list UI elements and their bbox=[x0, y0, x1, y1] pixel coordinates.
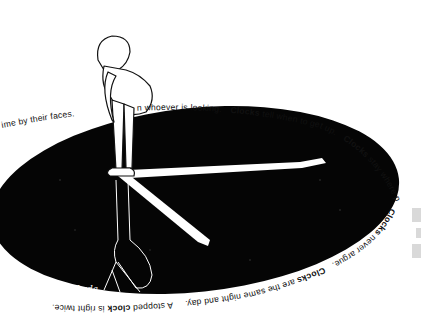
side-block-1 bbox=[412, 208, 421, 222]
clock-face-illustration: Lyda ime by their faces. n whoever is lo… bbox=[0, 0, 421, 331]
side-block-2 bbox=[416, 228, 421, 238]
artist-signature: Lyda bbox=[75, 284, 98, 294]
side-block-3 bbox=[412, 244, 421, 258]
clock-face bbox=[0, 87, 408, 313]
